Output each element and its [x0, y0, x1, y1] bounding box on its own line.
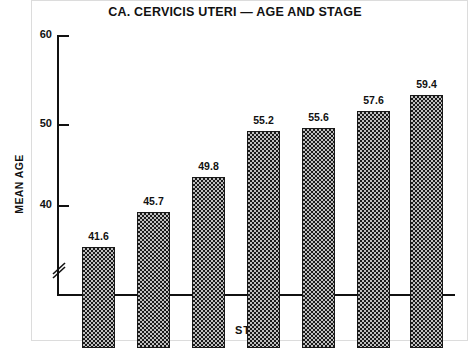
- bar-group-2: 49.8 1b: [192, 54, 225, 348]
- bar-value-4: 55.6: [294, 111, 343, 123]
- bar-value-3: 55.2: [239, 114, 288, 126]
- bar-value-1: 45.7: [129, 195, 178, 207]
- y-tick-50: [59, 124, 69, 126]
- y-tick-label-60: 60: [26, 28, 52, 40]
- y-tick-label-60-wrap: 60: [22, 28, 52, 41]
- y-tick-label-50-wrap: 50: [22, 117, 52, 130]
- y-axis-line: [57, 35, 59, 295]
- bar-6[interactable]: [410, 95, 443, 348]
- bar-3[interactable]: [247, 131, 280, 348]
- y-tick-60: [59, 35, 69, 37]
- bar-group-6: 59.4 IV: [410, 54, 443, 348]
- bar-group-5: 57.6 III: [357, 54, 390, 348]
- y-tick-label-40-wrap: 40: [22, 198, 52, 211]
- bar-0[interactable]: [82, 247, 115, 348]
- bar-5[interactable]: [357, 111, 390, 348]
- axis-break-icon: [50, 258, 68, 280]
- bar-group-4: 55.6 IIb: [302, 54, 335, 348]
- bar-value-2: 49.8: [184, 160, 233, 172]
- bar-value-6: 59.4: [402, 78, 451, 90]
- bar-value-5: 57.6: [349, 94, 398, 106]
- bar-group-1: 45.7 Ia: [137, 54, 170, 348]
- bar-value-0: 41.6: [74, 230, 123, 242]
- chart-figure: CA. CERVICIS UTERI — AGE AND STAGE MEAN …: [0, 0, 470, 348]
- bar-4[interactable]: [302, 128, 335, 348]
- chart-title: CA. CERVICIS UTERI — AGE AND STAGE: [0, 5, 470, 19]
- bar-group-3: 55.2 IIa: [247, 54, 280, 348]
- bar-group-0: 41.6 O: [82, 54, 115, 348]
- bar-2[interactable]: [192, 177, 225, 348]
- y-axis-title: MEAN AGE: [13, 139, 25, 229]
- y-tick-label-50: 50: [26, 117, 52, 129]
- y-tick-label-40: 40: [26, 198, 52, 210]
- bar-1[interactable]: [137, 212, 170, 348]
- y-tick-40: [59, 205, 69, 207]
